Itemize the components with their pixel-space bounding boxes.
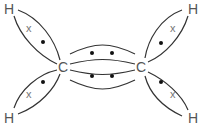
atom-h1: H: [4, 1, 14, 17]
atom-c1: C: [58, 59, 68, 75]
atom-c2: C: [136, 59, 146, 75]
cross-electron: x: [170, 88, 176, 100]
dot-electron: [90, 51, 94, 55]
double-bond-c1-c2: [70, 45, 135, 89]
cross-electron: x: [26, 22, 32, 34]
bond-h4-c2: x: [145, 72, 188, 116]
diagram-canvas: x x x x H H C C H H: [0, 0, 201, 126]
cross-electron: x: [26, 88, 32, 100]
dot-electron: [41, 40, 45, 44]
cross-electron: x: [170, 22, 176, 34]
dot-electron: [110, 51, 114, 55]
dot-electron: [159, 80, 163, 84]
dot-electron: [159, 41, 163, 45]
atom-h2: H: [4, 110, 14, 126]
ethene-dot-cross-diagram: x x x x H H C C H H: [0, 0, 201, 126]
atom-h3: H: [188, 1, 198, 17]
dot-electron: [90, 74, 94, 78]
atom-h4: H: [188, 110, 198, 126]
dot-electron: [110, 74, 114, 78]
bond-h1-c1: x: [14, 10, 60, 64]
bond-h3-c2: x: [145, 10, 188, 62]
bond-h2-c1: x: [14, 70, 60, 114]
dot-electron: [41, 80, 45, 84]
